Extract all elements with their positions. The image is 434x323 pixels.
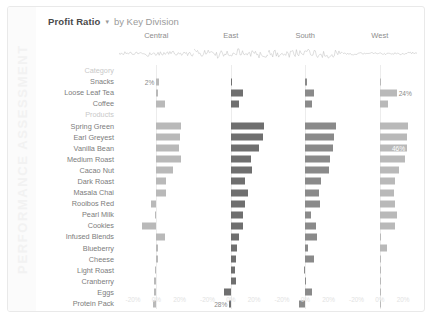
table-row[interactable]: Vanilla Bean46% — [36, 143, 417, 154]
bar[interactable] — [305, 256, 313, 263]
bar[interactable] — [380, 200, 396, 207]
bar[interactable] — [305, 145, 332, 152]
bar-cell-south[interactable] — [268, 265, 343, 276]
bar[interactable] — [305, 78, 307, 85]
bar[interactable] — [231, 123, 264, 130]
table-row[interactable]: Blueberry — [36, 243, 417, 254]
bar-cell-south[interactable] — [268, 143, 343, 154]
bar-cell-west[interactable] — [343, 176, 418, 187]
bar[interactable] — [305, 189, 318, 196]
bar[interactable] — [231, 267, 235, 274]
bar-cell-south[interactable] — [268, 254, 343, 265]
bar-cell-east[interactable] — [194, 87, 269, 98]
bar[interactable] — [380, 222, 396, 229]
bar[interactable] — [156, 134, 180, 141]
bar[interactable] — [231, 189, 248, 196]
table-row[interactable]: Infused Blends — [36, 231, 417, 242]
bar-cell-east[interactable] — [194, 220, 269, 231]
bar[interactable] — [380, 189, 395, 196]
table-row[interactable]: Medium Roast — [36, 154, 417, 165]
bar-cell-south[interactable] — [268, 87, 343, 98]
bar[interactable] — [231, 156, 251, 163]
bar[interactable] — [380, 134, 407, 141]
bar[interactable] — [156, 245, 157, 252]
bar-cell-east[interactable] — [194, 165, 269, 176]
table-row[interactable]: Cranberry — [36, 276, 417, 287]
bar[interactable] — [154, 278, 156, 285]
bar-cell-central[interactable] — [119, 265, 194, 276]
bar[interactable] — [231, 278, 237, 285]
bar[interactable] — [305, 134, 334, 141]
bar-cell-east[interactable] — [194, 265, 269, 276]
bar[interactable] — [380, 278, 381, 285]
bar[interactable] — [305, 156, 330, 163]
bar-cell-south[interactable] — [268, 243, 343, 254]
bar[interactable] — [380, 123, 409, 130]
bar[interactable] — [231, 245, 237, 252]
bar-cell-south[interactable] — [268, 198, 343, 209]
bar[interactable] — [156, 100, 165, 107]
bar-cell-west[interactable] — [343, 265, 418, 276]
bar-cell-central[interactable] — [119, 132, 194, 143]
bar-cell-south[interactable] — [268, 176, 343, 187]
bar-cell-central[interactable]: 2% — [119, 76, 194, 87]
bar-cell-west[interactable] — [343, 231, 418, 242]
bar-cell-east[interactable] — [194, 209, 269, 220]
bar-cell-west[interactable] — [343, 76, 418, 87]
bar-cell-central[interactable] — [119, 198, 194, 209]
bar[interactable] — [156, 178, 166, 185]
bar-cell-east[interactable] — [194, 276, 269, 287]
bar-cell-west[interactable] — [343, 154, 418, 165]
bar[interactable] — [380, 167, 399, 174]
bar[interactable] — [156, 233, 164, 240]
bar-cell-west[interactable]: 24% — [343, 87, 418, 98]
table-row[interactable]: Cacao Nut — [36, 165, 417, 176]
bar-cell-central[interactable] — [119, 276, 194, 287]
bar[interactable] — [305, 89, 314, 96]
bar-cell-central[interactable] — [119, 254, 194, 265]
bar-cell-east[interactable] — [194, 243, 269, 254]
bar-cell-east[interactable] — [194, 132, 269, 143]
bar[interactable] — [305, 289, 312, 296]
bar[interactable] — [231, 211, 243, 218]
bar-cell-central[interactable] — [119, 187, 194, 198]
bar-cell-east[interactable] — [194, 176, 269, 187]
bar-cell-east[interactable] — [194, 143, 269, 154]
bar-cell-south[interactable] — [268, 276, 343, 287]
bar[interactable] — [231, 233, 239, 240]
bar-cell-east[interactable] — [194, 231, 269, 242]
bar[interactable] — [304, 267, 305, 274]
bar-cell-west[interactable] — [343, 187, 418, 198]
bar[interactable] — [156, 256, 157, 263]
measure-title[interactable]: Profit Ratio — [48, 16, 100, 27]
bar-cell-south[interactable] — [268, 165, 343, 176]
bar-cell-east[interactable] — [194, 187, 269, 198]
bar[interactable] — [380, 178, 396, 185]
bar-cell-south[interactable] — [268, 220, 343, 231]
bar[interactable] — [305, 178, 321, 185]
bar[interactable] — [305, 123, 336, 130]
bar[interactable] — [305, 167, 329, 174]
table-row[interactable]: Cookies — [36, 220, 417, 231]
bar-cell-east[interactable] — [194, 98, 269, 109]
bar-cell-west[interactable] — [343, 254, 418, 265]
bar[interactable] — [231, 100, 240, 107]
table-row[interactable]: Loose Leaf Tea24% — [36, 87, 417, 98]
bar[interactable] — [305, 211, 311, 218]
table-row[interactable]: Light Roast — [36, 265, 417, 276]
chevron-down-icon[interactable]: ▾ — [105, 18, 109, 25]
bar[interactable] — [305, 200, 320, 207]
bar[interactable] — [305, 233, 317, 240]
bar[interactable] — [380, 233, 381, 240]
bar-cell-west[interactable] — [343, 165, 418, 176]
bar[interactable] — [231, 167, 253, 174]
bar-cell-west[interactable] — [343, 98, 418, 109]
bar[interactable] — [155, 211, 156, 218]
table-row[interactable]: Earl Greyest — [36, 132, 417, 143]
bar[interactable] — [224, 289, 230, 296]
bar[interactable] — [380, 89, 397, 96]
bar[interactable] — [231, 178, 246, 185]
bar[interactable] — [231, 89, 243, 96]
bar-cell-central[interactable] — [119, 231, 194, 242]
bar[interactable] — [380, 267, 381, 274]
